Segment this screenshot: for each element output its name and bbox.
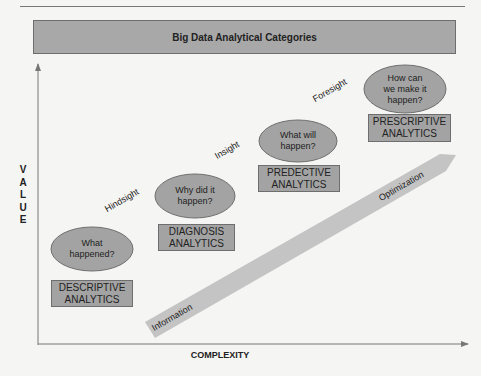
y-axis-label: V A L U E bbox=[16, 164, 30, 227]
question-prescriptive: How canwe make ithappen? bbox=[364, 65, 446, 113]
question-predictive: What willhappen? bbox=[259, 120, 337, 162]
question-descriptive: Whathappened? bbox=[51, 228, 133, 270]
diagram-canvas bbox=[0, 0, 481, 376]
x-axis-label: COMPLEXITY bbox=[160, 350, 280, 360]
y-letter: U bbox=[16, 202, 30, 215]
y-letter: L bbox=[16, 189, 30, 202]
category-box-prescriptive: PRESCRIPTIVEANALYTICS bbox=[368, 114, 451, 142]
y-letter: E bbox=[16, 214, 30, 227]
category-box-descriptive: DESCRIPTIVEANALYTICS bbox=[51, 280, 133, 307]
y-letter: A bbox=[16, 177, 30, 190]
y-letter: V bbox=[16, 164, 30, 177]
question-diagnosis: Why did ithappen? bbox=[155, 175, 235, 217]
category-box-predictive: PREDECTIVEANALYTICS bbox=[258, 165, 340, 192]
category-box-diagnosis: DIAGNOSISANALYTICS bbox=[158, 224, 235, 251]
